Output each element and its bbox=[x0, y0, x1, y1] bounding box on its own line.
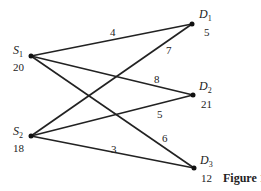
node-d1 bbox=[190, 22, 195, 27]
cost-s2-d2: 5 bbox=[157, 109, 163, 120]
label-d1: D1 bbox=[199, 9, 212, 24]
cost-s1-d1: 4 bbox=[110, 27, 116, 38]
supply-s2: 18 bbox=[13, 143, 24, 154]
label-d3: D3 bbox=[200, 155, 213, 170]
edge-s1-d2 bbox=[31, 56, 193, 95]
cost-s2-d1: 7 bbox=[166, 45, 172, 56]
node-d2 bbox=[191, 93, 196, 98]
edge-s2-d2 bbox=[31, 95, 193, 136]
node-d3 bbox=[192, 166, 197, 171]
demand-d2: 21 bbox=[201, 99, 212, 110]
network-diagram bbox=[0, 0, 261, 191]
cost-s1-d3: 6 bbox=[162, 133, 168, 144]
label-d2: D2 bbox=[199, 81, 212, 96]
demand-d3: 12 bbox=[201, 173, 212, 184]
label-s2: S2 bbox=[13, 126, 23, 141]
cost-s1-d2: 8 bbox=[154, 74, 160, 85]
supply-s1: 20 bbox=[13, 62, 24, 73]
figure-caption: Figure 1 bbox=[223, 173, 261, 184]
cost-s2-d3: 3 bbox=[111, 144, 117, 155]
label-s1: S1 bbox=[13, 45, 23, 60]
demand-d1: 5 bbox=[204, 27, 210, 38]
node-s1 bbox=[29, 54, 34, 59]
node-s2 bbox=[29, 134, 34, 139]
